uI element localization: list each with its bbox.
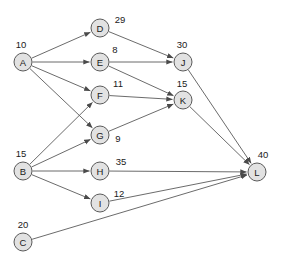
node-a[interactable]: A [14, 53, 32, 71]
graph-canvas: ABCDEFGHIJKL 1015202981193512301540 [0, 0, 286, 265]
node-label-h: H [97, 166, 104, 177]
node-label-j: J [181, 57, 186, 68]
node-f[interactable]: F [91, 86, 109, 104]
node-value-d: 29 [115, 14, 126, 25]
edge-a-to-d [32, 32, 91, 58]
node-value-c: 20 [18, 219, 29, 230]
node-c[interactable]: C [14, 233, 32, 251]
node-label-i: I [99, 198, 102, 209]
node-label-d: D [97, 23, 104, 34]
node-j[interactable]: J [174, 53, 192, 71]
node-k[interactable]: K [174, 91, 192, 109]
edges-layer [30, 32, 251, 240]
node-value-j: 30 [177, 39, 188, 50]
node-g[interactable]: G [91, 126, 109, 144]
edge-b-to-f [30, 102, 93, 164]
node-label-k: K [180, 95, 187, 106]
node-l[interactable]: L [248, 163, 266, 181]
node-value-h: 35 [116, 156, 127, 167]
nodes-layer: ABCDEFGHIJKL [14, 19, 266, 251]
edge-c-to-l [32, 175, 247, 239]
node-value-a: 10 [16, 39, 27, 50]
values-layer: 1015202981193512301540 [16, 14, 269, 230]
edge-j-to-l [188, 70, 251, 163]
node-value-e: 8 [112, 44, 117, 55]
node-value-f: 11 [113, 78, 123, 89]
edge-f-to-k [109, 96, 172, 100]
node-b[interactable]: B [14, 162, 32, 180]
edge-g-to-k [109, 104, 174, 131]
edge-b-to-i [32, 175, 91, 199]
node-label-f: F [97, 90, 103, 101]
node-label-g: G [96, 130, 103, 141]
node-i[interactable]: I [91, 194, 109, 212]
node-value-k: 15 [177, 78, 188, 89]
node-d[interactable]: D [91, 19, 109, 37]
node-label-b: B [20, 166, 26, 177]
node-label-l: L [254, 167, 259, 178]
edge-d-to-j [109, 32, 173, 58]
node-label-c: C [20, 237, 27, 248]
node-value-i: 12 [114, 188, 125, 199]
node-e[interactable]: E [91, 53, 109, 71]
node-h[interactable]: H [91, 162, 109, 180]
node-value-g: 9 [115, 133, 120, 144]
node-label-e: E [97, 57, 103, 68]
node-value-b: 15 [16, 148, 27, 159]
edge-i-to-l [109, 174, 246, 201]
graph-svg: ABCDEFGHIJKL 1015202981193512301540 [0, 0, 286, 265]
edge-k-to-l [190, 107, 250, 165]
node-value-l: 40 [258, 149, 269, 160]
node-label-a: A [20, 57, 27, 68]
edge-h-to-l [109, 171, 246, 172]
edge-a-to-g [30, 69, 92, 128]
